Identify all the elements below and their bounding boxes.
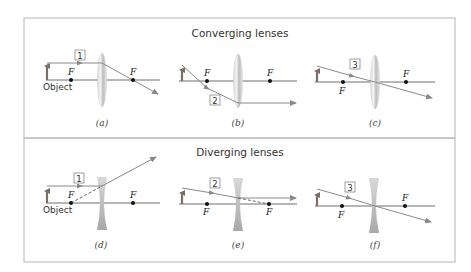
converging-lens-icon <box>234 54 243 108</box>
focal-label: F <box>402 69 410 79</box>
panel-caption: (d) <box>95 240 108 250</box>
object-label: Object <box>43 205 73 215</box>
ray-number: 1 <box>77 51 82 61</box>
panel-caption: (f) <box>370 240 381 250</box>
focal-point-icon <box>205 202 209 206</box>
focal-point-icon <box>268 79 272 83</box>
focal-label: F <box>67 190 75 200</box>
focal-point-icon <box>131 78 135 82</box>
panel-f: 3 F F (f) <box>315 178 435 250</box>
focal-point-icon <box>341 80 345 84</box>
diverging-title: Diverging lenses <box>196 146 283 158</box>
ray-number: 3 <box>352 60 357 70</box>
panel-caption: (c) <box>369 118 382 128</box>
focal-point-icon <box>205 79 209 83</box>
panel-caption: (a) <box>96 118 109 128</box>
focal-label: F <box>203 68 211 78</box>
ray-number: 2 <box>212 96 217 106</box>
focal-label: F <box>337 210 345 220</box>
diverging-section: Diverging lenses 1 F F Object (d) <box>24 138 455 262</box>
panel-b: 2 F F (b) <box>179 54 297 128</box>
focal-label: F <box>202 207 210 217</box>
focal-label: F <box>67 67 75 77</box>
panel-c: 3 F F (c) <box>315 55 435 128</box>
ray-number: 3 <box>347 183 352 193</box>
panel-a: 1 F F Object (a) <box>43 50 160 128</box>
focal-label: F <box>129 190 137 200</box>
converging-title: Converging lenses <box>192 27 289 39</box>
focal-point-icon <box>267 202 271 206</box>
ray-1-diverged <box>102 157 156 186</box>
focal-label: F <box>338 86 346 96</box>
virtual-ray-dashed <box>71 186 102 203</box>
panel-e: 2 F F (e) <box>179 178 297 250</box>
lens-ray-diagram: Converging lenses 1 F F Object (a) 2 <box>0 0 471 272</box>
ray-number: 1 <box>76 174 81 184</box>
ray-3-continued <box>375 206 431 222</box>
focal-label: F <box>265 207 273 217</box>
virtual-ray-dashed <box>238 198 269 204</box>
ray-3-continued <box>375 82 432 98</box>
panel-caption: (e) <box>232 240 245 250</box>
focal-point-icon <box>404 80 408 84</box>
focal-label: F <box>266 68 274 78</box>
converging-section: Converging lenses 1 F F Object (a) 2 <box>24 18 455 138</box>
focal-label: F <box>129 67 137 77</box>
panel-d: 1 F F Object (d) <box>43 157 160 250</box>
focal-point-icon <box>340 204 344 208</box>
focal-point-icon <box>403 204 407 208</box>
focal-point-icon <box>131 201 135 205</box>
ray-number: 2 <box>212 179 217 189</box>
ray-2 <box>182 188 238 198</box>
converging-lens-icon <box>98 53 107 107</box>
object-label: Object <box>43 82 73 92</box>
panel-caption: (b) <box>232 118 245 128</box>
focal-label: F <box>401 193 409 203</box>
ray-3 <box>317 66 375 82</box>
